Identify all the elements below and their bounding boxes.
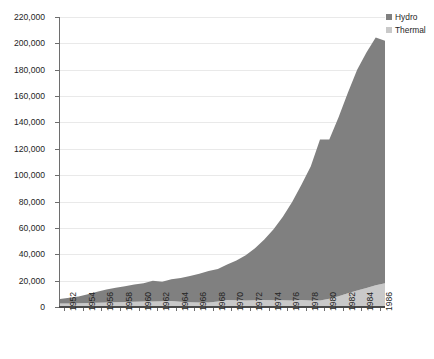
x-axis-tick-label: 1956 xyxy=(105,292,115,311)
plot-area xyxy=(60,17,385,307)
x-axis-tick-label: 1958 xyxy=(124,292,134,311)
x-axis-tick-label: 1978 xyxy=(310,292,320,311)
x-axis-tick-label: 1972 xyxy=(254,292,264,311)
stacked-area-series xyxy=(60,17,385,307)
x-axis-tick-label: 1970 xyxy=(235,292,245,311)
y-axis-tick-label: 120,000 xyxy=(0,144,45,154)
y-axis-line xyxy=(59,17,60,307)
x-axis-tick-label: 1964 xyxy=(180,292,190,311)
y-axis-tick-label: 80,000 xyxy=(0,197,45,207)
x-axis-tick-label: 1966 xyxy=(198,292,208,311)
legend-item-thermal[interactable]: Thermal xyxy=(386,25,434,35)
x-axis-tick-label: 1980 xyxy=(328,292,338,311)
y-axis-tick-label: 220,000 xyxy=(0,12,45,22)
y-axis-tick-label: 200,000 xyxy=(0,38,45,48)
legend-swatch-icon xyxy=(386,14,392,20)
y-axis-tick-label: 100,000 xyxy=(0,170,45,180)
legend-label: Hydro xyxy=(395,12,417,22)
legend-item-hydro[interactable]: Hydro xyxy=(386,12,434,22)
x-axis-tick-label: 1982 xyxy=(347,292,357,311)
legend-label: Thermal xyxy=(395,25,426,35)
y-axis-tick-label: 60,000 xyxy=(0,223,45,233)
chart-figure: Electric Power in Gigawatt hour (GWh) 02… xyxy=(0,0,434,359)
x-axis-tick-label: 1976 xyxy=(291,292,301,311)
x-axis-tick-label: 1984 xyxy=(365,292,375,311)
area-series-hydro xyxy=(60,37,385,303)
y-axis-tick-label: 40,000 xyxy=(0,249,45,259)
figure-caption xyxy=(4,350,430,359)
x-axis-tick-label: 1968 xyxy=(217,292,227,311)
x-axis-tick-label: 1974 xyxy=(273,292,283,311)
legend-swatch-icon xyxy=(386,27,392,33)
x-axis-tick-label: 1960 xyxy=(143,292,153,311)
y-axis-tick-label: 20,000 xyxy=(0,276,45,286)
x-axis-tick-label: 1962 xyxy=(161,292,171,311)
y-axis-tick-label: 0 xyxy=(0,302,45,312)
chart-legend: HydroThermal xyxy=(386,12,434,38)
y-axis-tick-label: 160,000 xyxy=(0,91,45,101)
y-axis-tick-label: 180,000 xyxy=(0,65,45,75)
x-axis-tick-label: 1986 xyxy=(384,292,394,311)
x-axis-tick-label: 1954 xyxy=(87,292,97,311)
y-axis-tick-label: 140,000 xyxy=(0,117,45,127)
x-axis-tick-label: 1952 xyxy=(68,292,78,311)
